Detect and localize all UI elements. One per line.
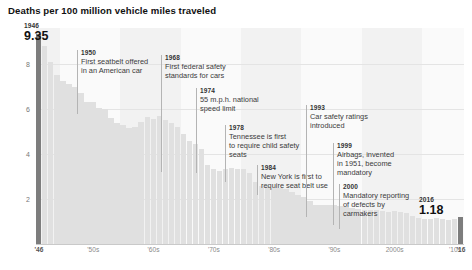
bar-1989 — [295, 195, 300, 244]
annotation-body-1993: 1993Car safety ratingsintroduced — [310, 104, 368, 130]
bar-1974 — [205, 165, 210, 244]
annotation-body-1974: 197455 m.p.h. nationalspeed limit — [200, 87, 259, 113]
annotation-year-2000: 2000 — [343, 183, 409, 190]
bar-1959 — [114, 123, 119, 245]
annotation-text-2000-line-3: carmakers — [343, 209, 409, 218]
bar-1981 — [247, 173, 252, 244]
annotation-text-1993-line-1: Car safety ratings — [310, 112, 368, 121]
bar-1946 — [36, 34, 41, 244]
bar-1984 — [265, 186, 270, 244]
annotation-body-1999: 1999Airbags, inventedin 1951, becomemand… — [337, 142, 394, 178]
bar-1979 — [235, 169, 240, 244]
annotation-text-1950-line-2: in an American car — [81, 66, 148, 75]
y-axis-tick-6: 6 — [14, 106, 30, 113]
bar-1967 — [163, 120, 168, 244]
bar-1957 — [102, 109, 107, 244]
annotation-text-2000-line-1: Mandatory reporting — [343, 191, 409, 200]
bar-1969 — [175, 127, 180, 244]
x-axis-tick-70s: '70s — [208, 246, 220, 253]
bar-2015 — [452, 219, 457, 244]
bar-1994 — [325, 205, 330, 244]
annotation-text-1978-line-1: Tennessee is first — [229, 132, 299, 141]
annotation-body-2000: 2000Mandatory reportingof defects bycarm… — [343, 183, 409, 219]
x-axis-line — [36, 244, 464, 245]
bar-1970 — [181, 134, 186, 244]
bar-1949 — [54, 75, 59, 244]
endpoint-end-year: 2016 — [419, 196, 443, 203]
x-axis-tick-60s: '60s — [148, 246, 160, 253]
annotation-body-1984: 1984New York is first torequire seat bel… — [261, 164, 328, 190]
bar-1947 — [42, 46, 47, 244]
bar-1991 — [307, 201, 312, 244]
annotation-year-1999: 1999 — [337, 142, 394, 149]
annotation-leader-line-2000 — [339, 184, 340, 229]
annotation-text-1950-line-1: First seatbelt offered — [81, 57, 148, 66]
bar-1987 — [283, 189, 288, 244]
annotation-year-1968: 1968 — [165, 54, 226, 61]
bar-1983 — [259, 186, 264, 244]
bar-1963 — [138, 122, 143, 244]
annotation-year-1950: 1950 — [81, 49, 148, 56]
x-axis-tick-90s: '90s — [328, 246, 340, 253]
annotation-body-1950: 1950First seatbelt offeredin an American… — [81, 49, 148, 75]
annotation-body-1968: 1968First federal safetystandards for ca… — [165, 54, 226, 80]
annotation-text-1968-line-2: standards for cars — [165, 71, 226, 80]
annotation-leader-line-1993 — [306, 105, 307, 217]
bar-1975 — [211, 169, 216, 244]
bar-1971 — [187, 141, 192, 244]
endpoint-callout-start: 1946 9.35 — [24, 22, 48, 43]
bar-1986 — [277, 188, 282, 244]
annotation-text-1978-line-3: seats — [229, 150, 299, 159]
bar-1955 — [90, 102, 95, 244]
bar-1961 — [126, 128, 131, 244]
bar-1978 — [229, 168, 234, 244]
x-axis-tick-2000s: 2000s — [386, 246, 404, 253]
annotation-year-1974: 1974 — [200, 87, 259, 94]
bar-2010 — [422, 219, 427, 244]
bar-1953 — [78, 93, 83, 244]
annotation-text-1974-line-2: speed limit — [200, 104, 259, 113]
annotation-text-1978-line-2: to require child safety — [229, 141, 299, 150]
bar-1965 — [151, 119, 156, 244]
bar-2008 — [410, 216, 415, 244]
annotation-text-1974-line-1: 55 m.p.h. national — [200, 95, 259, 104]
bar-1951 — [66, 84, 71, 244]
annotation-text-2000-line-2: of defects by — [343, 200, 409, 209]
annotation-text-1999-line-1: Airbags, invented — [337, 150, 394, 159]
bar-1976 — [217, 171, 222, 244]
bar-1964 — [145, 117, 150, 244]
bar-1954 — [84, 102, 89, 244]
annotation-leader-line-1999 — [333, 143, 334, 225]
bar-2009 — [416, 218, 421, 244]
endpoint-start-year: 1946 — [24, 22, 48, 29]
annotation-leader-line-1950 — [77, 50, 78, 114]
annotation-leader-line-1968 — [161, 55, 162, 172]
annotation-year-1993: 1993 — [310, 104, 368, 111]
bar-1958 — [108, 118, 113, 244]
bar-2014 — [446, 220, 451, 244]
bar-1948 — [48, 62, 53, 244]
bar-1980 — [241, 169, 246, 244]
x-axis-tick-50s: '50s — [87, 246, 99, 253]
annotation-leader-line-1984 — [257, 165, 258, 195]
annotation-leader-line-1978 — [225, 125, 226, 182]
annotation-body-1978: 1978Tennessee is firstto require child s… — [229, 124, 299, 160]
bar-1950 — [60, 81, 65, 244]
annotation-year-1984: 1984 — [261, 164, 328, 171]
chart-title: Deaths per 100 million vehicle miles tra… — [8, 5, 216, 16]
bar-2016 — [458, 217, 463, 244]
annotation-text-1984-line-1: New York is first to — [261, 172, 328, 181]
bar-1960 — [120, 125, 125, 244]
endpoint-callout-end: 2016 1.18 — [419, 196, 443, 217]
bar-1985 — [271, 188, 276, 244]
x-axis-tick-16: '16 — [457, 246, 466, 253]
bar-1968 — [169, 123, 174, 245]
bar-2012 — [434, 218, 439, 244]
x-axis-tick-80s: '80s — [268, 246, 280, 253]
bar-1988 — [289, 192, 294, 244]
bar-1962 — [132, 127, 137, 244]
annotation-text-1968-line-1: First federal safety — [165, 62, 226, 71]
y-axis-tick-8: 8 — [14, 61, 30, 68]
annotation-text-1984-line-2: require seat belt use — [261, 181, 328, 190]
chart-container: Deaths per 100 million vehicle miles tra… — [0, 0, 472, 270]
